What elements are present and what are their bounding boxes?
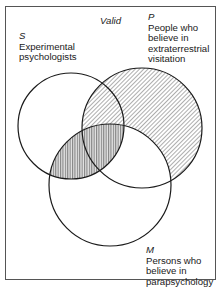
set-desc-line: visitation [148, 54, 209, 65]
set-symbol-s: S [19, 31, 77, 42]
set-label-s: S Experimental psychologists [19, 31, 77, 63]
set-desc-line: parapsychology [146, 277, 213, 287]
set-symbol-m: M [146, 245, 213, 256]
set-symbol-p: P [148, 12, 209, 23]
set-label-m: M Persons who believe in parapsychology [146, 245, 213, 287]
set-desc-line: psychologists [19, 52, 77, 63]
diagram-title: Valid [100, 15, 121, 26]
set-label-p: P People who believe in extraterrestrial… [148, 12, 209, 65]
